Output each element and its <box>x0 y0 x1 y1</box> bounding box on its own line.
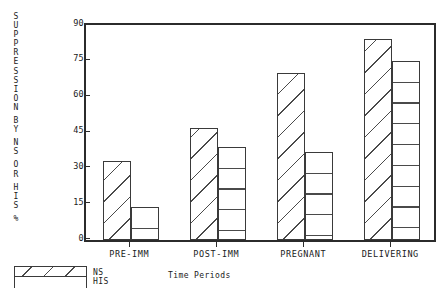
legend: NS HIS <box>14 266 87 288</box>
plot-area <box>84 23 436 242</box>
legend-label-his: HIS <box>93 277 109 286</box>
y-axis-title-char: P <box>14 39 19 48</box>
y-axis-title-char: H <box>14 183 19 192</box>
legend-swatch-ns <box>15 267 86 277</box>
y-axis-title-char: N <box>14 138 19 147</box>
x-tick-label-pregnant: PREGNANT <box>280 249 326 259</box>
bar-his-delivering <box>392 61 420 240</box>
y-tick-label: 30 <box>62 162 84 171</box>
bar-his-pre-imm <box>131 207 159 240</box>
y-tick-label: 45 <box>62 126 84 135</box>
bar-ns-pre-imm <box>103 161 131 240</box>
y-tick-label: 15 <box>62 198 84 207</box>
x-tick-mark <box>390 240 391 247</box>
bars-container <box>86 25 434 240</box>
y-tick-label: 60 <box>62 90 84 99</box>
bar-his-pregnant <box>305 152 333 240</box>
bar-ns-pregnant <box>277 73 305 240</box>
y-tick-label: 90 <box>62 19 84 28</box>
y-axis-title-char: O <box>14 94 19 103</box>
x-tick-mark <box>216 240 217 247</box>
bar-his-post-imm <box>218 147 246 240</box>
legend-label-ns: NS <box>93 268 103 277</box>
y-axis-title-char: U <box>14 21 19 30</box>
x-tick-label-delivering: DELIVERING <box>362 249 419 259</box>
y-axis-title: SUPPRESSIONBYNSORHIS% <box>8 12 24 237</box>
y-axis-title-char: B <box>14 116 19 125</box>
bar-ns-post-imm <box>190 128 218 240</box>
bar-chart-figure: SUPPRESSIONBYNSORHIS% 0153045607590 PRE-… <box>0 0 443 299</box>
y-axis-title-char: % <box>14 214 19 223</box>
y-axis-title-char: S <box>14 67 19 76</box>
y-tick-label: 75 <box>62 54 84 63</box>
x-axis-title: Time Periods <box>168 271 231 281</box>
y-axis-title-char: Y <box>14 125 19 134</box>
y-axis-title-char: S <box>14 147 19 156</box>
legend-swatch-his <box>15 278 86 288</box>
y-axis-title-char: I <box>14 85 19 94</box>
y-axis-title-char: S <box>14 201 19 210</box>
y-axis-title-char: O <box>14 160 19 169</box>
y-axis-title-char: E <box>14 57 19 66</box>
x-axis-ticks: PRE-IMMPOST-IMMPREGNANTDELIVERING <box>84 240 432 266</box>
y-axis-title-char: S <box>14 12 19 21</box>
y-axis-title-char: I <box>14 192 19 201</box>
y-axis-title-char: N <box>14 103 19 112</box>
legend-box <box>14 266 87 288</box>
y-axis-title-char: P <box>14 30 19 39</box>
x-tick-label-post-imm: POST-IMM <box>193 249 239 259</box>
y-axis-title-char: R <box>14 48 19 57</box>
bar-ns-delivering <box>364 39 392 240</box>
x-tick-label-pre-imm: PRE-IMM <box>109 249 149 259</box>
y-axis-title-char: R <box>14 170 19 179</box>
y-axis-title-char: S <box>14 76 19 85</box>
y-axis-ticks: 0153045607590 <box>54 23 84 238</box>
x-tick-mark <box>303 240 304 247</box>
x-tick-mark <box>129 240 130 247</box>
y-tick-label: 0 <box>62 234 84 243</box>
